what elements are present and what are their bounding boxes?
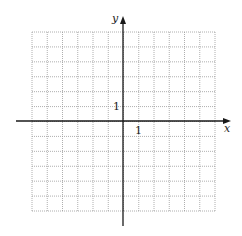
y-axis-label: y [112, 13, 118, 24]
x-unit-tick-label: 1 [135, 125, 142, 136]
y-unit-tick-label: 1 [113, 101, 120, 112]
y-axis-arrow-icon [120, 16, 126, 24]
coordinate-plane [0, 0, 242, 236]
x-axis-label: x [224, 123, 230, 134]
